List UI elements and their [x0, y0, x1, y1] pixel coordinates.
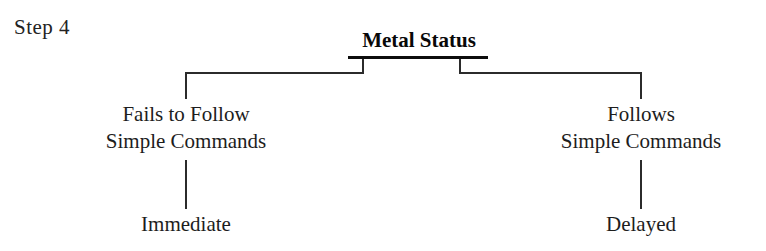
branch-node-left-line2: Simple Commands [56, 128, 316, 155]
branch-node-left-line1: Fails to Follow [122, 102, 249, 126]
decision-tree-diagram: Step 4 Metal Status Fails to Follow Simp… [0, 0, 766, 251]
branch-node-right-line1: Follows [607, 102, 675, 126]
branch-node-right: Follows Simple Commands [511, 101, 766, 155]
leaf-node-right: Delayed [531, 211, 751, 238]
leaf-node-left: Immediate [76, 211, 296, 238]
root-node-underline [348, 56, 488, 59]
root-node-label: Metal Status [348, 27, 490, 53]
branch-node-right-line2: Simple Commands [511, 128, 766, 155]
step-caption: Step 4 [14, 14, 70, 40]
branch-node-left: Fails to Follow Simple Commands [56, 101, 316, 155]
